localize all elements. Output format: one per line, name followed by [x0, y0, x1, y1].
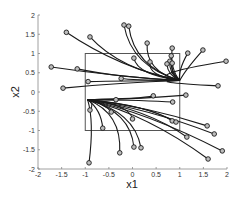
start-point-marker [126, 24, 131, 29]
start-point-marker [151, 94, 156, 99]
x-tick-label: 0.5 [151, 171, 161, 178]
y-tick-label: 1 [31, 50, 35, 57]
start-point-marker [170, 61, 175, 66]
start-point-marker [170, 46, 175, 51]
start-point-marker [109, 110, 114, 115]
trajectory-line [88, 96, 154, 100]
y-tick-label: -2 [29, 166, 35, 173]
y-tick-label: 0 [31, 89, 35, 96]
y-tick-label: -1.5 [23, 146, 35, 153]
start-point-marker [132, 145, 137, 150]
start-point-marker [170, 100, 175, 105]
start-point-marker [64, 30, 69, 35]
x-tick-label: -1 [82, 171, 88, 178]
start-point-marker [114, 97, 119, 102]
start-point-marker [224, 59, 229, 64]
start-markers [49, 23, 228, 165]
start-point-marker [139, 146, 144, 151]
start-point-marker [174, 120, 179, 125]
x-tick-label: 0 [131, 171, 135, 178]
start-point-marker [87, 161, 92, 166]
start-point-marker [148, 60, 153, 65]
start-point-marker [185, 135, 190, 140]
y-tick-label: 2 [31, 12, 35, 19]
start-point-marker [185, 51, 190, 56]
start-point-marker [220, 149, 225, 154]
y-tick-label: -0.5 [23, 108, 35, 115]
start-point-marker [169, 54, 174, 59]
x-tick-label: -0.5 [103, 171, 115, 178]
y-tick-label: -1 [29, 127, 35, 134]
trajectory-line [180, 50, 203, 80]
axes: -2-1.5-1-0.500.511.5221.510.50-0.5-1-1.5… [23, 12, 229, 179]
trajectory-line [63, 80, 180, 88]
x-axis-label: x1 [126, 178, 138, 190]
start-point-marker [216, 84, 221, 89]
x-tick-label: 1 [178, 171, 182, 178]
phase-portrait-chart: -2-1.5-1-0.500.511.5221.510.50-0.5-1-1.5… [0, 0, 240, 198]
start-point-marker [88, 108, 93, 113]
start-point-marker [117, 151, 122, 156]
x-tick-label: 1.5 [199, 171, 209, 178]
start-point-marker [119, 76, 124, 81]
start-point-marker [184, 93, 189, 98]
start-point-marker [61, 86, 66, 91]
x-tick-label: -2 [35, 171, 41, 178]
start-point-marker [49, 65, 54, 70]
trajectory-line [167, 80, 218, 85]
trajectory-line [51, 67, 180, 80]
start-point-marker [75, 67, 80, 72]
trajectory-line [179, 53, 187, 80]
trajectories [51, 25, 226, 163]
start-point-marker [145, 41, 150, 46]
start-point-marker [100, 126, 105, 131]
start-point-marker [165, 62, 170, 67]
y-tick-label: 0.5 [25, 69, 35, 76]
start-point-marker [212, 132, 217, 137]
y-tick-label: 1.5 [25, 31, 35, 38]
start-point-marker [88, 35, 93, 40]
trajectory-line [88, 100, 208, 159]
y-axis-label: x2 [9, 86, 21, 98]
start-point-marker [86, 79, 91, 84]
start-point-marker [206, 157, 211, 162]
start-point-marker [132, 56, 137, 61]
start-point-marker [122, 23, 127, 28]
start-point-marker [205, 124, 210, 129]
start-point-marker [201, 48, 206, 53]
x-tick-label: 2 [225, 171, 229, 178]
start-point-marker [130, 117, 135, 122]
x-tick-label: -1.5 [56, 171, 68, 178]
